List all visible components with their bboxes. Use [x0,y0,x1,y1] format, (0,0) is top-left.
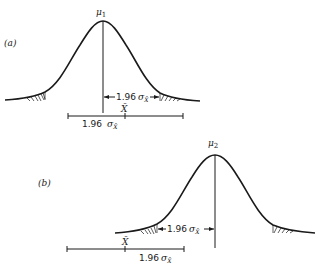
sampling-distribution-diagram: (a) μ1 [0,0,318,265]
panel-a-sample-mean-label: X̄ [120,103,128,114]
panel-b-mean-label: μ2 [208,138,218,150]
panel-a-arrow-label: 1.96σX̄ [116,92,149,103]
panel-a: (a) μ1 [4,7,200,130]
panel-b-label: (b) [38,178,51,188]
panel-b-arrow-label: 1.96σX̄ [167,224,200,235]
panel-b: (b) μ2 [38,138,315,264]
panel-b-bar-label: 1.96σX̄ [139,253,172,264]
panel-b-sample-mean-label: X̄ [121,236,129,247]
panel-a-label: (a) [4,38,17,48]
panel-b-interval-bar [67,246,184,252]
panel-a-bar-label: 1.96σX̄ [82,119,118,130]
panel-b-width-arrow: 1.96σX̄ [158,224,214,235]
panel-a-mean-label: μ1 [96,7,106,19]
panel-a-width-arrow: 1.96σX̄ [104,92,159,103]
